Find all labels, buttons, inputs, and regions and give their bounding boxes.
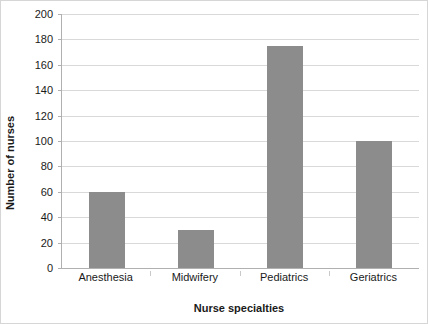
- y-axis-tick-label: 120: [35, 110, 53, 122]
- y-axis-tick-label: 20: [41, 237, 53, 249]
- y-axis-tick-label: 0: [47, 262, 53, 274]
- y-axis-tick-mark: [58, 268, 62, 269]
- bar-series: [62, 14, 419, 268]
- x-axis-tick-labels: AnesthesiaMidwiferyPediatricsGeriatrics: [61, 271, 418, 291]
- x-axis-tick-label: Anesthesia: [78, 271, 132, 283]
- bar-midwifery[interactable]: [178, 230, 214, 268]
- y-axis-tick-label: 180: [35, 33, 53, 45]
- x-axis-tick-label: Midwifery: [172, 271, 218, 283]
- x-axis-tick-mark: [240, 271, 241, 276]
- x-axis-tick-label: Geriatrics: [350, 271, 397, 283]
- x-axis-tick-label: Pediatrics: [260, 271, 308, 283]
- bar-geriatrics[interactable]: [356, 141, 392, 268]
- y-axis-tick-label: 100: [35, 135, 53, 147]
- y-axis-tick-label: 80: [41, 160, 53, 172]
- bar-chart-figure: Number of nurses 02040608010012014016018…: [0, 0, 428, 324]
- y-axis-tick-labels: 020406080100120140160180200: [19, 14, 57, 268]
- plot-area: [61, 14, 419, 269]
- bar-pediatrics[interactable]: [267, 46, 303, 268]
- y-axis-tick-label: 40: [41, 211, 53, 223]
- bar-anesthesia[interactable]: [89, 192, 125, 268]
- y-axis-tick-label: 140: [35, 84, 53, 96]
- y-axis-title-text: Number of nurses: [4, 116, 16, 210]
- y-axis-tick-label: 60: [41, 186, 53, 198]
- x-axis-tick-mark: [150, 271, 151, 276]
- x-axis-tick-mark: [329, 271, 330, 276]
- y-axis-title: Number of nurses: [1, 1, 19, 324]
- x-axis-title: Nurse specialties: [61, 302, 417, 314]
- y-axis-tick-label: 200: [35, 8, 53, 20]
- y-axis-tick-label: 160: [35, 59, 53, 71]
